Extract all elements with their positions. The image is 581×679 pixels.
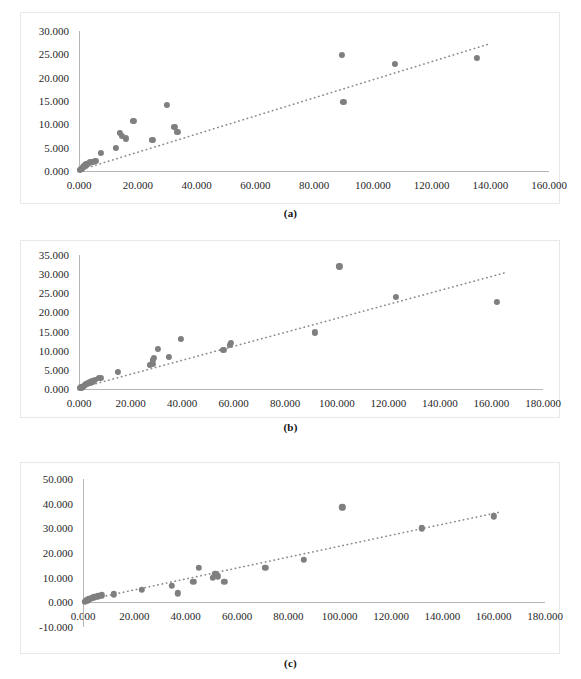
caption-c: (c) bbox=[0, 657, 581, 669]
scatter-plot-a: 0.0005.00010.00015.00020.00025.00030.000… bbox=[21, 13, 559, 203]
caption-b: (b) bbox=[0, 421, 581, 433]
chart-panel-b: 0.0005.00010.00015.00020.00025.00030.000… bbox=[20, 240, 560, 418]
chart-panel-a: 0.0005.00010.00015.00020.00025.00030.000… bbox=[20, 12, 560, 204]
chart-panel-c: -10.0000.00010.00020.00030.00040.00050.0… bbox=[20, 462, 560, 654]
scatter-plot-c: -10.0000.00010.00020.00030.00040.00050.0… bbox=[21, 463, 559, 653]
trendline bbox=[21, 463, 559, 653]
trendline bbox=[21, 241, 559, 417]
caption-a: (a) bbox=[0, 207, 581, 219]
figure-page: 0.0005.00010.00015.00020.00025.00030.000… bbox=[0, 0, 581, 679]
trendline bbox=[21, 13, 559, 203]
scatter-plot-b: 0.0005.00010.00015.00020.00025.00030.000… bbox=[21, 241, 559, 417]
